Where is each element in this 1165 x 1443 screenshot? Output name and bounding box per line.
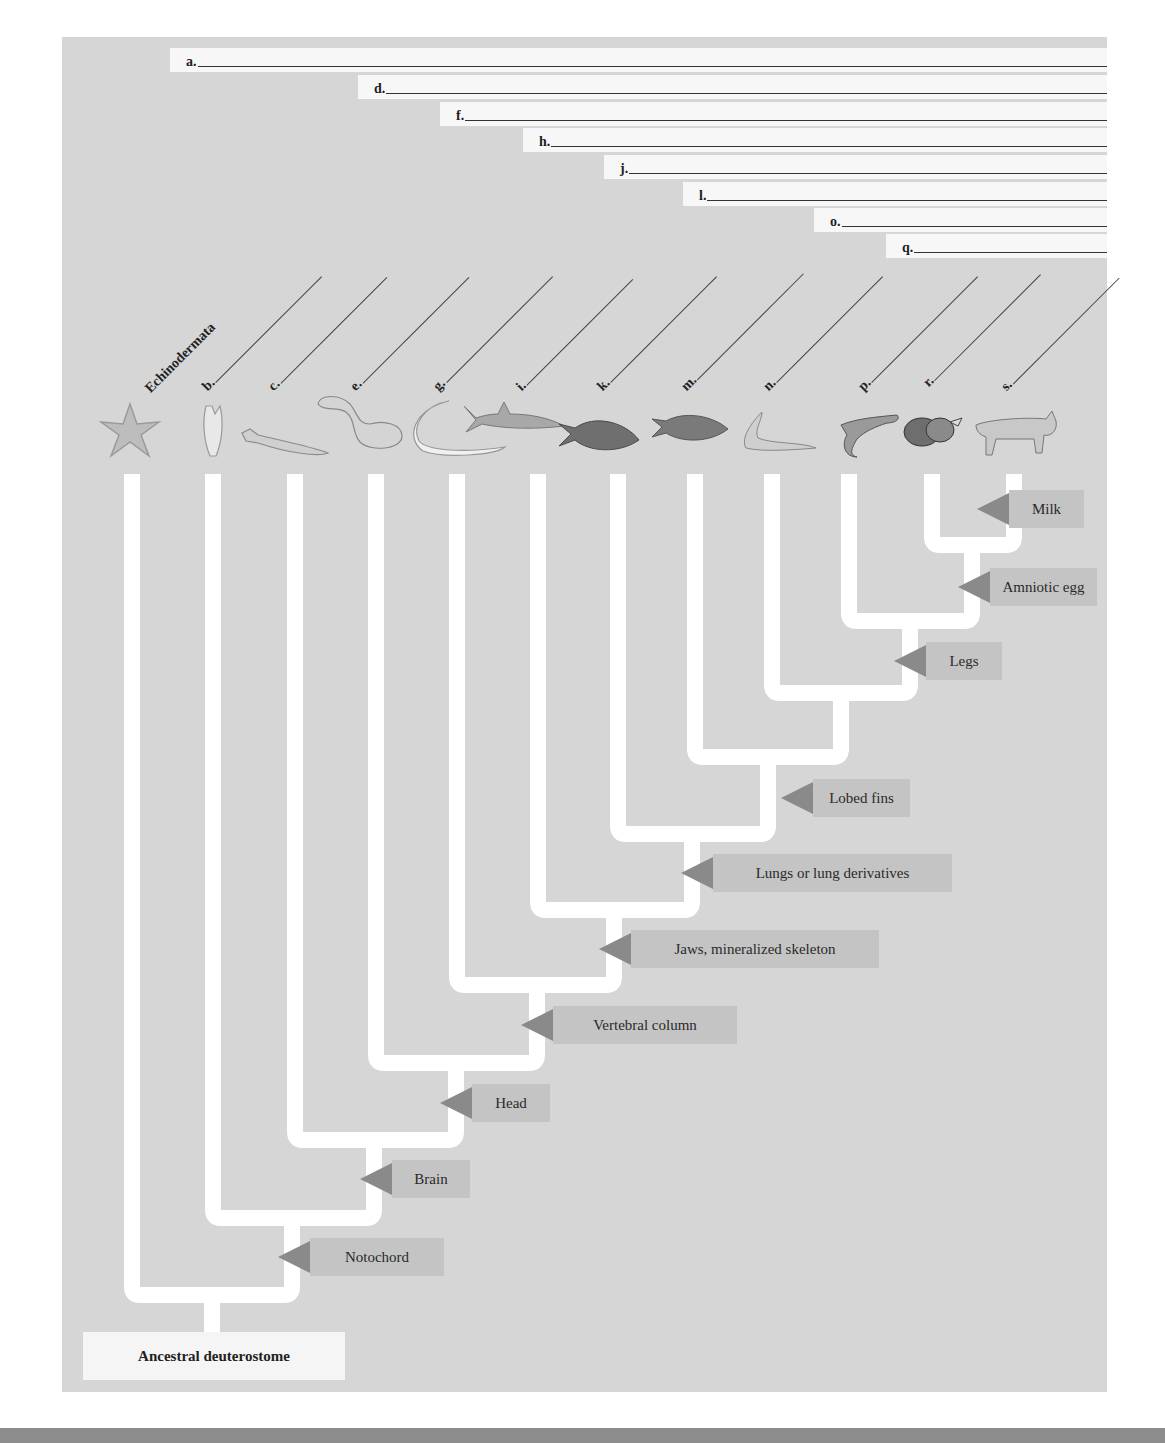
trait-arrow-icon [521,1009,553,1041]
trait-lobed-fins: Lobed fins [813,779,910,817]
trait-text: Amniotic egg [1002,579,1084,596]
trait-text: Head [495,1095,527,1112]
trait-lungs: Lungs or lung derivatives [713,854,952,892]
trait-vertebral-column: Vertebral column [553,1006,737,1044]
trait-arrow-icon [599,933,631,965]
trait-head: Head [472,1084,550,1122]
trait-legs: Legs [926,642,1002,680]
trait-text: Brain [414,1171,447,1188]
trait-arrow-icon [360,1163,392,1195]
root-ancestral-deuterostome: Ancestral deuterostome [83,1332,345,1380]
trait-text: Lungs or lung derivatives [756,865,910,882]
trait-arrow-icon [958,571,990,603]
trait-arrow-icon [440,1087,472,1119]
trait-amniotic-egg: Amniotic egg [990,568,1097,606]
trait-text: Milk [1032,501,1061,518]
trait-arrow-icon [681,857,713,889]
trait-notochord: Notochord [310,1238,444,1276]
cladogram-branches [0,0,1165,1443]
trait-text: Jaws, mineralized skeleton [674,941,835,958]
root-text: Ancestral deuterostome [138,1348,290,1365]
trait-text: Lobed fins [829,790,894,807]
trait-jaws: Jaws, mineralized skeleton [631,930,879,968]
trait-text: Notochord [345,1249,409,1266]
trait-arrow-icon [894,645,926,677]
trait-text: Vertebral column [593,1017,697,1034]
trait-arrow-icon [977,493,1009,525]
trait-milk: Milk [1009,490,1084,528]
trait-arrow-icon [278,1241,310,1273]
trait-text: Legs [949,653,978,670]
page-divider [0,1428,1165,1443]
trait-arrow-icon [781,782,813,814]
trait-brain: Brain [392,1160,470,1198]
